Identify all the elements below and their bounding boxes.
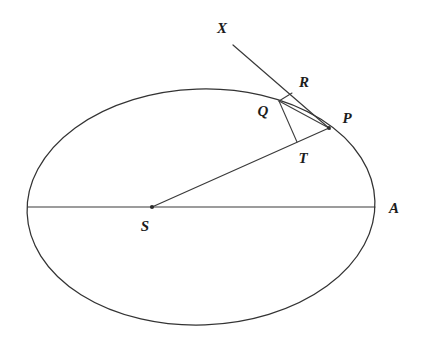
segment-qp xyxy=(279,101,329,128)
focal-radius-sp xyxy=(152,128,329,207)
point-dot-s xyxy=(150,205,154,209)
point-dot-p xyxy=(327,126,331,130)
geometry-diagram: X R Q P T S A xyxy=(0,0,430,348)
label-s: S xyxy=(141,218,149,234)
label-p: P xyxy=(342,110,352,126)
label-r: R xyxy=(298,74,309,90)
segment-qr xyxy=(279,93,292,101)
label-t: T xyxy=(298,150,308,166)
label-q: Q xyxy=(258,103,269,119)
segment-qt xyxy=(279,101,297,142)
label-a: A xyxy=(388,200,399,216)
label-x: X xyxy=(216,20,228,36)
tangent-line-xp xyxy=(233,45,330,129)
geometry-canvas: X R Q P T S A xyxy=(0,0,430,348)
